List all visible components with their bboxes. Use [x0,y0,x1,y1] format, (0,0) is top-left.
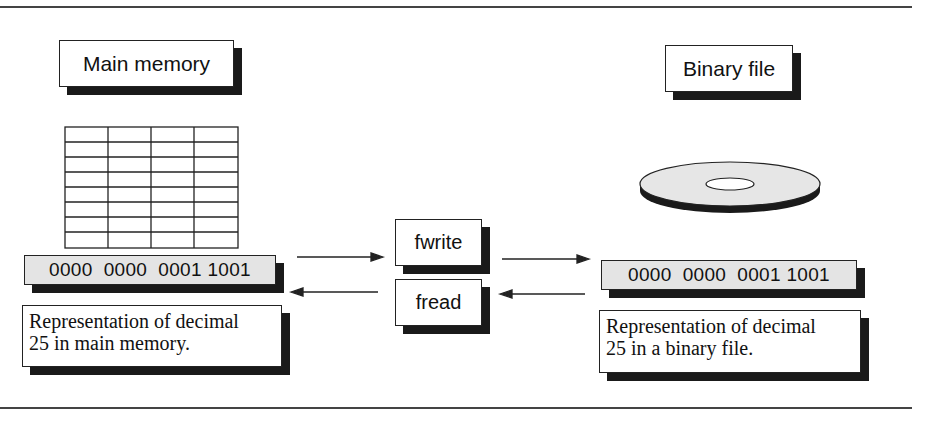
fread-label: fread [416,291,462,314]
binary-file-title: Binary file [683,57,775,81]
fread-box: fread [395,279,482,326]
memory-binary-value: 0000 0000 0001 1001 [49,259,251,281]
binary-file-title-box: Binary file [665,45,793,92]
memory-description-line1: Representation of decimal [29,310,275,332]
disk-icon [640,162,820,213]
file-description-line2: 25 in a binary file. [606,337,854,359]
memory-grid-icon [65,127,238,248]
memory-description-line2: 25 in main memory. [29,332,275,354]
memory-binary-value-box: 0000 0000 0001 1001 [24,255,276,285]
memory-description-box: Representation of decimal 25 in main mem… [22,305,282,367]
file-description-box: Representation of decimal 25 in a binary… [599,310,861,373]
file-description-line1: Representation of decimal [606,315,854,337]
file-binary-value-box: 0000 0000 0001 1001 [601,260,857,290]
fwrite-label: fwrite [415,231,463,254]
file-binary-value: 0000 0000 0001 1001 [628,264,830,286]
fwrite-box: fwrite [395,219,482,266]
